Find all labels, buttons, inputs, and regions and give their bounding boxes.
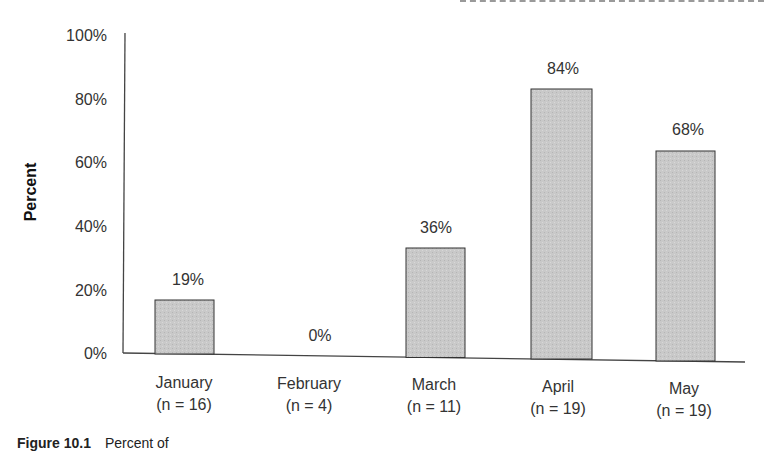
- x-label-february: February: [277, 375, 341, 392]
- value-label-february: 0%: [308, 327, 331, 344]
- bar-chart: Percent 100% 80% 60% 40% 20% 0% 19% 0% 3…: [0, 0, 764, 430]
- x-sublabel-february: (n = 4): [286, 397, 333, 414]
- y-tick-labels: 100% 80% 60% 40% 20% 0%: [66, 27, 107, 362]
- figure-number: Figure 10.1: [17, 435, 91, 451]
- y-tick-40: 40%: [75, 218, 107, 235]
- x-sublabel-january: (n = 16): [156, 396, 212, 413]
- figure-caption: Figure 10.1Percent of: [17, 435, 169, 451]
- x-label-may: May: [669, 380, 699, 397]
- bar-january: [155, 300, 214, 354]
- y-tick-80: 80%: [75, 91, 107, 108]
- y-tick-60: 60%: [75, 154, 107, 171]
- y-tick-100: 100%: [66, 27, 107, 44]
- x-sublabel-may: (n = 19): [656, 402, 712, 419]
- bar-april: [531, 89, 592, 359]
- x-sublabel-march: (n = 11): [407, 398, 461, 415]
- value-label-march: 36%: [420, 219, 452, 236]
- y-axis-label: Percent: [22, 162, 39, 221]
- bar-march: [406, 248, 465, 358]
- x-label-march: March: [412, 376, 456, 393]
- y-axis-line: [123, 33, 125, 353]
- x-sublabel-april: (n = 19): [530, 400, 586, 417]
- bar-may: [656, 151, 715, 361]
- y-tick-20: 20%: [75, 282, 107, 299]
- x-label-january: January: [156, 374, 213, 391]
- value-label-may: 68%: [672, 121, 704, 138]
- x-label-april: April: [542, 378, 574, 395]
- y-tick-0: 0%: [84, 345, 107, 362]
- value-label-april: 84%: [547, 60, 579, 77]
- figure-caption-text: Percent of: [105, 435, 169, 451]
- value-label-january: 19%: [172, 271, 204, 288]
- x-category-labels: January (n = 16) February (n = 4) March …: [156, 374, 712, 419]
